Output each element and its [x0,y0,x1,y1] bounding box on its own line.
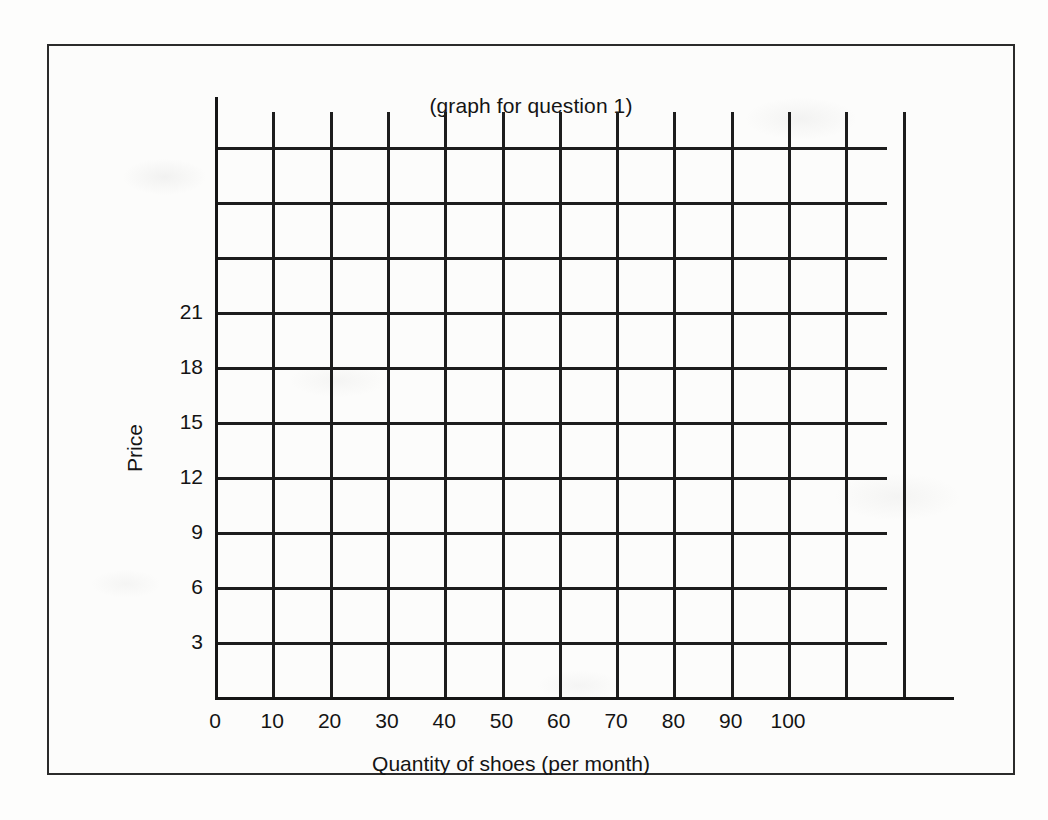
y-axis-tick-label: 18 [157,355,203,379]
gridline-vertical [845,112,848,697]
gridline-vertical [788,112,791,697]
gridline-vertical [444,112,447,697]
gridline-vertical [559,112,562,697]
x-axis-line [215,697,954,700]
x-axis-tick-label: 60 [529,709,589,733]
gridline-horizontal [215,477,887,480]
y-axis-line [215,97,218,700]
gridline-vertical [616,112,619,697]
gridline-horizontal [215,202,887,205]
x-axis-tick-label: 20 [300,709,360,733]
x-axis-tick-label: 30 [357,709,417,733]
x-axis-title: Quantity of shoes (per month) [251,752,771,776]
gridline-vertical [330,112,333,697]
plot-area: 369121518210102030405060708090100Quantit… [49,46,1017,777]
y-axis-tick-label: 6 [157,575,203,599]
x-axis-tick-label: 40 [414,709,474,733]
gridline-vertical [387,112,390,697]
gridline-horizontal [215,422,887,425]
gridline-horizontal [215,532,887,535]
gridline-vertical [502,112,505,697]
gridline-horizontal [215,642,887,645]
gridline-horizontal [215,147,887,150]
figure-border-frame: (graph for question 1) 36912151821010203… [47,44,1015,775]
x-axis-tick-label: 80 [643,709,703,733]
y-axis-title: Price [123,388,147,508]
y-axis-tick-label: 12 [157,465,203,489]
page-canvas: (graph for question 1) 36912151821010203… [0,0,1048,820]
gridline-vertical [903,112,906,697]
y-axis-tick-label: 15 [157,410,203,434]
gridline-horizontal [215,312,887,315]
gridline-vertical [673,112,676,697]
gridline-vertical [272,112,275,697]
x-axis-tick-label: 0 [185,709,245,733]
gridline-horizontal [215,367,887,370]
gridline-horizontal [215,587,887,590]
x-axis-tick-label: 90 [701,709,761,733]
y-axis-tick-label: 3 [157,630,203,654]
gridline-vertical [731,112,734,697]
y-axis-tick-label: 9 [157,520,203,544]
y-axis-tick-label: 21 [157,300,203,324]
x-axis-tick-label: 70 [586,709,646,733]
x-axis-tick-label: 100 [758,709,818,733]
gridline-horizontal [215,257,887,260]
x-axis-tick-label: 10 [242,709,302,733]
x-axis-tick-label: 50 [472,709,532,733]
